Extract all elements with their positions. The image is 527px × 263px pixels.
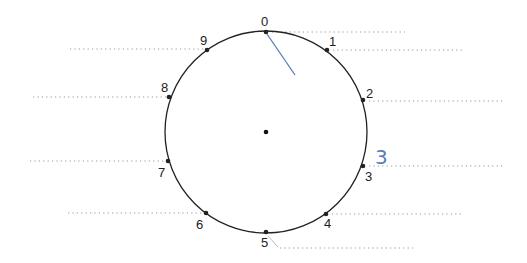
- clock-diagram: 0123456789 3: [0, 0, 527, 263]
- point-marker-5: [264, 230, 269, 235]
- point-marker-6: [204, 211, 209, 216]
- point-marker-3: [361, 164, 366, 169]
- tick-line-5: [268, 236, 278, 247]
- point-label-3: 3: [365, 169, 372, 184]
- pointer-line: [267, 34, 295, 75]
- point-label-9: 9: [200, 33, 207, 48]
- point-label-0: 0: [261, 14, 268, 29]
- handwritten-annotation: 3: [375, 145, 388, 169]
- point-label-2: 2: [366, 86, 373, 101]
- point-label-6: 6: [196, 217, 203, 232]
- point-marker-8: [167, 95, 172, 100]
- point-label-7: 7: [158, 165, 165, 180]
- point-marker-7: [166, 159, 171, 164]
- point-label-4: 4: [324, 216, 331, 231]
- point-marker-9: [205, 48, 210, 53]
- dotted-guide-lines: [30, 32, 505, 248]
- point-label-8: 8: [161, 80, 168, 95]
- center-dot: [264, 130, 269, 135]
- point-marker-0: [264, 30, 269, 35]
- point-marker-2: [361, 98, 366, 103]
- point-label-5: 5: [261, 235, 268, 250]
- point-label-1: 1: [329, 34, 336, 49]
